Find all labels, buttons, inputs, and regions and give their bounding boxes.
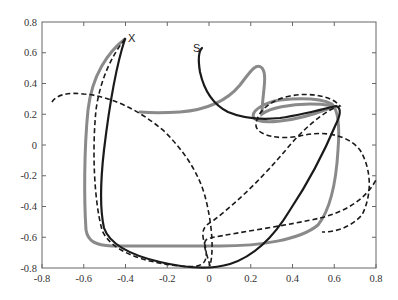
x-tick-label: 0.8	[369, 273, 382, 284]
label-s: S	[193, 42, 200, 54]
x-tick-label: 0.2	[244, 273, 257, 284]
curve-gray-solid	[85, 39, 339, 246]
x-tick-label: -0.8	[34, 273, 51, 284]
x-tick-label: 0.4	[286, 273, 300, 284]
label-x: X	[128, 32, 136, 44]
curve-black-dashed-2	[94, 39, 369, 267]
x-tick-label: 0.6	[328, 273, 341, 284]
y-tick-label: 0.2	[24, 109, 37, 120]
y-tick-label: -0.8	[20, 263, 37, 274]
chart: -0.8 -0.6 -0.4 -0.2 0 0.2 0.4 0.6 0.8 0.…	[0, 0, 398, 300]
x-tick-label: -0.4	[117, 273, 134, 284]
x-tick-label: -0.2	[159, 273, 176, 284]
y-tick-label: 0.6	[24, 47, 37, 58]
x-tick-labels: -0.8 -0.6 -0.4 -0.2 0 0.2 0.4 0.6 0.8	[34, 273, 383, 284]
y-tick-labels: 0.8 0.6 0.4 0.2 0 -0.2 -0.4 -0.6 -0.8	[20, 17, 37, 274]
y-tick-label: 0	[32, 140, 37, 151]
y-tick-label: -0.2	[20, 170, 37, 181]
y-tick-label: 0.4	[24, 78, 38, 89]
y-tick-label: 0.8	[24, 17, 37, 28]
x-tick-label: 0	[206, 273, 211, 284]
y-tick-label: -0.4	[20, 201, 37, 212]
x-tick-label: -0.6	[75, 273, 92, 284]
y-tick-label: -0.6	[20, 232, 37, 243]
